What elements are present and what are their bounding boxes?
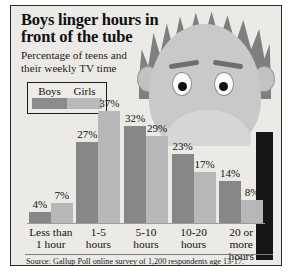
- bar-slot: 29%: [146, 102, 168, 224]
- legend-label-row: Boys Girls: [32, 85, 102, 97]
- bar-slot: 32%: [124, 102, 146, 224]
- bar-slot: 23%: [172, 102, 194, 224]
- x-axis-label-line: hours: [75, 238, 123, 250]
- bar-value-label: 32%: [125, 112, 145, 124]
- x-axis-label-line: hours: [122, 238, 170, 250]
- x-axis-label-line: Less than: [27, 226, 75, 238]
- bar-slot: 27%: [76, 102, 98, 224]
- bar-value-label: 29%: [147, 122, 167, 134]
- x-axis-line: [27, 223, 265, 224]
- source-divider: [25, 254, 273, 255]
- bar-boys: 27%: [76, 142, 98, 224]
- x-axis-label-line: 1-5: [75, 226, 123, 238]
- bar-girls: 29%: [146, 136, 168, 224]
- bar-girls: 8%: [241, 200, 263, 224]
- right-eyebrow-shape: [213, 60, 243, 70]
- bar-value-label: 4%: [32, 198, 47, 210]
- bar-value-label: 7%: [54, 189, 69, 201]
- bar-slot: 7%: [51, 102, 73, 224]
- x-axis-label-line: hours: [170, 238, 218, 250]
- x-axis-label-line: 10-20: [170, 226, 218, 238]
- x-axis-label-line: 20 or more: [217, 226, 265, 250]
- bar-chart-plot: 4%7%27%37%32%29%23%17%14%8%: [27, 102, 265, 224]
- bar-girls: 7%: [51, 203, 73, 224]
- subtitle-line-2: their weekly TV time: [21, 62, 117, 74]
- title-line-2: front of the tube: [21, 27, 132, 46]
- bar-boys: 14%: [219, 181, 241, 224]
- bar-group: 4%7%: [27, 102, 75, 224]
- right-ear-shape: [253, 66, 275, 92]
- x-axis-label-line: 5-10: [122, 226, 170, 238]
- bar-slot: 8%: [241, 102, 263, 224]
- bar-group-container: 4%7%27%37%32%29%23%17%14%8%: [27, 102, 265, 224]
- right-pupil-shape: [219, 82, 228, 91]
- headline-block: Boys linger hours in front of the tube P…: [21, 11, 169, 74]
- legend-label-girls: Girls: [67, 85, 102, 97]
- page-subtitle: Percentage of teens and their weekly TV …: [21, 49, 169, 74]
- bar-group: 27%37%: [75, 102, 123, 224]
- infographic-frame: Boys linger hours in front of the tube P…: [10, 5, 282, 266]
- bar-girls: 17%: [194, 172, 216, 224]
- left-eyebrow-shape: [169, 60, 199, 70]
- bar-group: 32%29%: [122, 102, 170, 224]
- bar-slot: 14%: [219, 102, 241, 224]
- bar-boys: 32%: [124, 126, 146, 224]
- right-eye-shape: [214, 72, 234, 96]
- subtitle-line-1: Percentage of teens and: [21, 49, 127, 61]
- bar-value-label: 27%: [77, 128, 97, 140]
- bar-value-label: 37%: [99, 97, 119, 109]
- legend-label-boys: Boys: [32, 85, 67, 97]
- x-axis-label-line: 1 hour: [27, 238, 75, 250]
- left-eye-shape: [172, 72, 192, 96]
- bar-slot: 4%: [29, 102, 51, 224]
- left-pupil-shape: [178, 82, 187, 91]
- infographic-root: Boys linger hours in front of the tube P…: [0, 0, 292, 276]
- bar-slot: 17%: [194, 102, 216, 224]
- bar-group: 23%17%: [170, 102, 218, 224]
- bar-value-label: 23%: [172, 140, 192, 152]
- bar-slot: 37%: [98, 102, 120, 224]
- bar-value-label: 17%: [194, 158, 214, 170]
- bar-girls: 37%: [98, 111, 120, 224]
- bar-group: 14%8%: [217, 102, 265, 224]
- bar-boys: 23%: [172, 154, 194, 224]
- bar-value-label: 14%: [220, 167, 240, 179]
- bar-value-label: 8%: [245, 186, 260, 198]
- page-title: Boys linger hours in front of the tube: [21, 11, 169, 45]
- source-note: Source: Gallup Poll online survey of 1,2…: [26, 257, 244, 266]
